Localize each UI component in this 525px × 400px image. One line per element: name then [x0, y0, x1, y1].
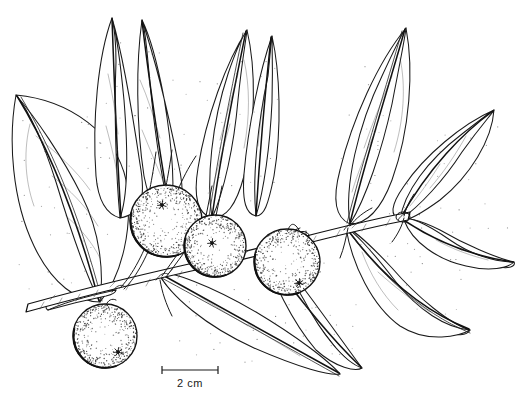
stipple-dot [89, 308, 90, 309]
stipple-dot [144, 229, 145, 230]
stipple-dot [226, 227, 227, 228]
stipple-dot [111, 315, 112, 316]
stipple-dot [155, 243, 156, 244]
stipple-dot [306, 250, 307, 251]
stipple-dot [161, 246, 162, 247]
stipple-dot [174, 248, 175, 249]
stipple-dot [301, 257, 302, 258]
stipple-dot [270, 244, 271, 245]
stipple-dot [143, 244, 144, 245]
stipple-dot [146, 197, 147, 198]
stipple-dot [309, 245, 310, 246]
stipple-dot [318, 258, 319, 259]
stipple-dot [135, 226, 136, 227]
leaf-stipple-dot [370, 248, 371, 249]
leaf-stipple-dot [236, 73, 237, 74]
stipple-dot [190, 222, 191, 223]
stipple-dot [197, 266, 198, 267]
stipple-dot [272, 232, 273, 233]
stipple-dot [157, 246, 158, 247]
stipple-dot [120, 309, 121, 310]
stipple-dot [171, 191, 172, 192]
stipple-dot [134, 216, 135, 217]
stipple-dot [217, 269, 218, 270]
stipple-dot [86, 351, 87, 352]
stipple-dot [121, 313, 122, 314]
stipple-dot [303, 242, 304, 243]
stipple-dot [307, 240, 308, 241]
stipple-dot [211, 258, 212, 259]
stipple-dot [124, 356, 125, 357]
stipple-dot [264, 259, 265, 260]
stipple-dot [276, 243, 277, 244]
stipple-dot [176, 200, 177, 201]
stipple-dot [84, 313, 85, 314]
stipple-dot [182, 191, 183, 192]
stipple-dot [267, 246, 268, 247]
leaf-stipple-dot [22, 120, 23, 121]
stipple-dot [313, 280, 314, 281]
leaf-stipple-dot [330, 315, 331, 316]
stipple-dot [125, 328, 126, 329]
stipple-dot [133, 216, 134, 217]
stipple-dot [125, 321, 126, 322]
leaf-stipple-dot [219, 342, 220, 343]
stipple-dot [219, 231, 220, 232]
stipple-dot [194, 204, 195, 205]
stipple-dot [300, 250, 301, 251]
stipple-dot [110, 345, 111, 346]
stipple-dot [223, 227, 224, 228]
stipple-dot [230, 223, 232, 225]
stipple-dot [130, 328, 131, 329]
stipple-dot [98, 310, 99, 311]
leaf-stipple-dot [305, 309, 306, 310]
stipple-dot [130, 340, 131, 341]
stipple-dot [201, 233, 202, 234]
stipple-dot [242, 250, 243, 251]
stipple-dot [305, 273, 306, 274]
stipple-dot [187, 241, 188, 242]
stipple-dot [141, 220, 142, 221]
stipple-dot [170, 200, 171, 201]
leaf-stipple-dot [422, 263, 423, 264]
stipple-dot [182, 213, 183, 214]
stipple-dot [191, 250, 192, 251]
stipple-dot [82, 341, 83, 342]
leaf-stipple-dot [261, 76, 262, 77]
stipple-dot [287, 288, 288, 289]
stipple-dot [126, 355, 127, 356]
stipple-dot [125, 335, 126, 336]
leaf-stipple-dot [87, 116, 88, 117]
stipple-dot [235, 237, 236, 238]
stipple-dot [240, 229, 241, 230]
stipple-dot [165, 250, 166, 251]
leaf-stipple-dot [507, 227, 508, 228]
stipple-dot [154, 194, 155, 195]
stipple-dot [239, 254, 240, 255]
stipple-dot [183, 223, 184, 224]
stipple-dot [200, 246, 201, 247]
stipple-dot [143, 240, 145, 242]
leaf-stipple-dot [459, 270, 460, 271]
stipple-dot [199, 262, 200, 263]
stipple-dot [110, 315, 111, 316]
stipple-dot [88, 335, 89, 336]
leaf-stipple-dot [486, 145, 487, 146]
stipple-dot [313, 259, 314, 260]
stipple-dot [147, 232, 148, 233]
stipple-dot [119, 347, 120, 348]
stipple-dot [164, 188, 165, 189]
stipple-dot [214, 270, 215, 271]
stipple-dot [100, 350, 101, 351]
stipple-dot [156, 245, 157, 246]
stipple-dot [285, 265, 286, 266]
stipple-dot [242, 245, 243, 246]
stipple-dot [173, 193, 174, 194]
stipple-dot [275, 285, 276, 286]
leaf-stipple-dot [287, 294, 288, 295]
stipple-dot [314, 258, 315, 259]
stipple-dot [294, 231, 295, 232]
stipple-dot [263, 280, 264, 281]
stipple-dot [210, 266, 211, 267]
stipple-dot [194, 255, 195, 256]
